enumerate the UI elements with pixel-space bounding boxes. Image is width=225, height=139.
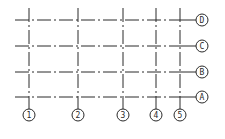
axis-bubble-5: 5 (174, 109, 186, 121)
axis-grid-diagram: DCBA 12345 (0, 0, 225, 139)
horizontal-axis-bubbles: DCBA (196, 14, 208, 103)
axis-bubble-D: D (196, 14, 208, 26)
axis-bubble-4: 4 (150, 109, 162, 121)
axis-bubble-C: C (196, 40, 208, 52)
axis-bubble-3: 3 (117, 109, 129, 121)
horizontal-axis-lines (15, 20, 196, 97)
vertical-axis-lines (29, 8, 180, 109)
axis-bubble-2: 2 (72, 109, 84, 121)
bubble-label: 2 (76, 111, 81, 120)
axis-bubble-A: A (196, 91, 208, 103)
bubble-label: 1 (27, 111, 32, 120)
bubble-label: A (200, 93, 205, 102)
bubble-label: D (200, 16, 205, 25)
axis-bubble-1: 1 (23, 109, 35, 121)
vertical-axis-bubbles: 12345 (23, 109, 186, 121)
axis-bubble-B: B (196, 66, 208, 78)
bubble-label: C (200, 42, 205, 51)
bubble-label: 4 (154, 111, 159, 120)
bubble-label: 3 (121, 111, 126, 120)
bubble-label: 5 (178, 111, 183, 120)
bubble-label: B (200, 68, 205, 77)
